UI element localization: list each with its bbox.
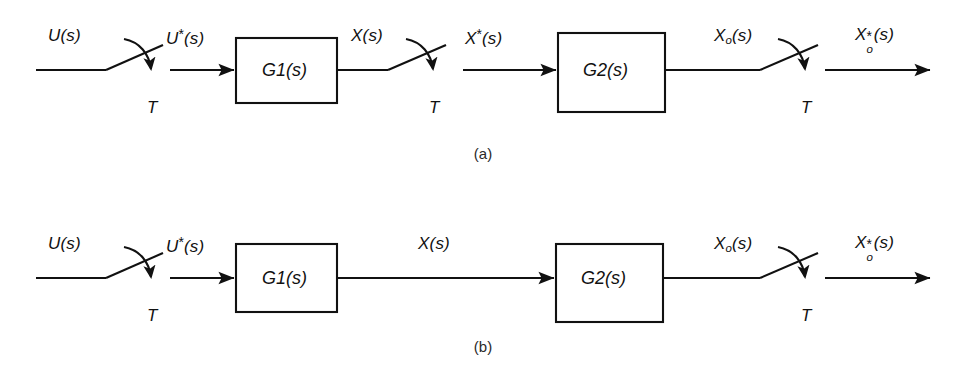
label-sampler-period-mid-a: T [429,98,439,118]
sampler-output-a-blade [760,45,818,70]
block-label-g1-b: G1(s) [262,268,307,289]
label-output-sampled-a: X*o(s) [855,26,894,43]
sampler-input-b-arc [124,247,151,277]
label-sampler-period-input-b: T [147,306,157,326]
sampler-mid-a-blade [388,45,446,70]
label-input-a: U(s) [48,26,81,46]
sampler-mid-a-arc [406,39,433,69]
sampler-output-a-arc [778,39,805,69]
block-label-g1-a: G1(s) [262,60,307,81]
sampler-output-b-blade [760,253,818,278]
label-mid-a: X(s) [351,26,383,46]
sampler-input-b-blade [106,253,163,278]
label-input-sampled-a: U*(s) [166,26,204,49]
label-output-a: Xo(s) [714,26,752,46]
label-sampler-period-output-b: T [801,306,811,326]
label-output-sampled-b: X*o(s) [855,234,894,251]
block-label-g2-a: G2(s) [583,60,628,81]
label-sampler-period-input-a: T [147,98,157,118]
label-input-b: U(s) [48,234,81,254]
diagram-vector-layer [0,0,966,370]
label-input-sampled-b: U*(s) [166,234,204,257]
label-sampler-period-output-a: T [801,98,811,118]
caption-a: (a) [453,145,513,162]
block-label-g2-b: G2(s) [581,268,626,289]
caption-b: (b) [453,338,513,355]
label-output-b: Xo(s) [714,234,752,254]
sampler-input-a-blade [106,45,163,70]
sampler-output-b-arc [778,247,805,277]
sampler-input-a-arc [124,39,151,69]
label-mid-sampled-a: X*(s) [465,26,502,49]
label-mid-b: X(s) [418,234,450,254]
figure-sampled-data-block-diagrams: U(s) U*(s) G1(s) X(s) X*(s) G2(s) Xo(s) … [0,0,966,370]
